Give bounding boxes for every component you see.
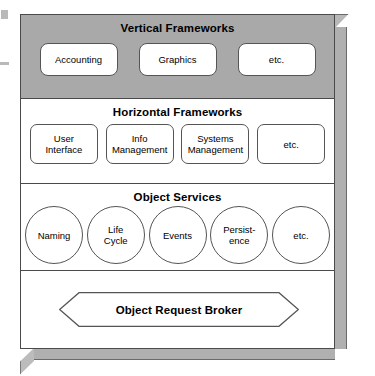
band-horizontal-frameworks: Horizontal Frameworks User Interface Inf… bbox=[21, 99, 334, 184]
node-object-request-broker[interactable]: Object Request Broker bbox=[59, 292, 299, 327]
band-title-horizontal-frameworks: Horizontal Frameworks bbox=[21, 99, 334, 119]
node-label-line1: Systems bbox=[197, 133, 233, 144]
omg-architecture-diagram: Vertical Frameworks Accounting Graphics … bbox=[20, 14, 335, 349]
node-row-horizontal-frameworks: User Interface Info Management Systems M… bbox=[21, 124, 334, 164]
scan-artifact-middle bbox=[0, 62, 9, 65]
node-label: Accounting bbox=[55, 54, 102, 65]
node-label: Systems Management bbox=[188, 133, 243, 155]
node-label: Life Cycle bbox=[104, 224, 128, 246]
band-vertical-frameworks: Vertical Frameworks Accounting Graphics … bbox=[21, 15, 334, 99]
node-label-line2: Interface bbox=[45, 144, 82, 155]
node-label-line2: Management bbox=[112, 144, 167, 155]
node-user-interface[interactable]: User Interface bbox=[30, 124, 98, 164]
node-label-line1: Info bbox=[132, 133, 148, 144]
object-request-broker-label: Object Request Broker bbox=[59, 292, 299, 327]
scan-artifact-top bbox=[1, 10, 8, 19]
band-object-services: Object Services Naming Life Cycle Events… bbox=[21, 184, 334, 271]
node-life-cycle[interactable]: Life Cycle bbox=[87, 206, 145, 264]
node-label: etc. bbox=[293, 230, 308, 241]
node-label: User Interface bbox=[45, 133, 82, 155]
node-horizontal-etc[interactable]: etc. bbox=[257, 124, 325, 164]
node-label: Persist- ence bbox=[223, 224, 255, 246]
extrusion-bottom-left-bevel bbox=[20, 348, 34, 375]
band-object-request-broker: Object Request Broker bbox=[21, 271, 334, 348]
node-vertical-etc[interactable]: etc. bbox=[238, 43, 316, 76]
band-title-object-services: Object Services bbox=[21, 184, 334, 204]
circle-row-object-services: Naming Life Cycle Events Persist- ence e… bbox=[21, 206, 334, 264]
node-accounting[interactable]: Accounting bbox=[40, 43, 118, 76]
node-label: etc. bbox=[283, 139, 298, 150]
extrusion-bottom-face bbox=[33, 348, 335, 360]
extrusion-right-face bbox=[334, 27, 347, 349]
node-systems-management[interactable]: Systems Management bbox=[181, 124, 249, 164]
node-row-vertical-frameworks: Accounting Graphics etc. bbox=[21, 43, 334, 76]
node-label: Info Management bbox=[112, 133, 167, 155]
node-label-line2: Management bbox=[188, 144, 243, 155]
node-naming[interactable]: Naming bbox=[25, 206, 83, 264]
node-label: etc. bbox=[269, 54, 284, 65]
node-graphics[interactable]: Graphics bbox=[139, 43, 217, 76]
node-label-line2: Cycle bbox=[104, 235, 128, 246]
node-label-line1: Life bbox=[108, 224, 123, 235]
band-title-vertical-frameworks: Vertical Frameworks bbox=[21, 15, 334, 35]
node-label: Graphics bbox=[158, 54, 196, 65]
node-label: Events bbox=[163, 230, 192, 241]
node-persistence[interactable]: Persist- ence bbox=[210, 206, 268, 264]
node-events[interactable]: Events bbox=[149, 206, 207, 264]
node-services-etc[interactable]: etc. bbox=[272, 206, 330, 264]
node-label-line1: Persist- bbox=[223, 224, 255, 235]
node-label-line2: ence bbox=[229, 235, 250, 246]
node-label-line1: User bbox=[54, 133, 74, 144]
node-label: Naming bbox=[38, 230, 71, 241]
node-info-management[interactable]: Info Management bbox=[106, 124, 174, 164]
